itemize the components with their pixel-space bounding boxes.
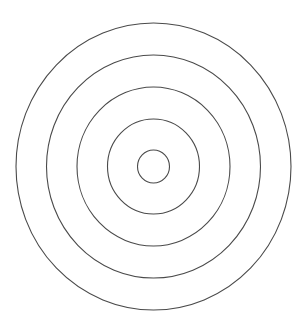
concentric-rings-diagram bbox=[0, 0, 304, 330]
ring-1-innermost bbox=[138, 150, 170, 183]
ring-3 bbox=[77, 87, 230, 246]
ring-2 bbox=[108, 119, 200, 214]
ring-5-outermost bbox=[16, 23, 291, 310]
ring-4 bbox=[47, 55, 261, 278]
target-rings-graphic bbox=[0, 0, 304, 330]
